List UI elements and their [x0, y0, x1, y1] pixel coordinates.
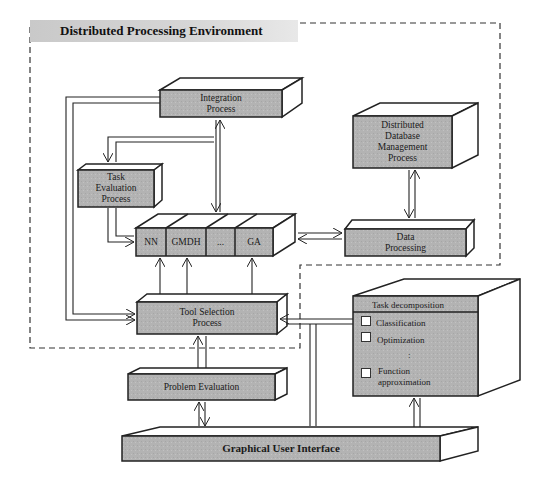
task-eval-line2: Evaluation — [95, 183, 136, 194]
tool-sel-line2: Process — [192, 318, 221, 329]
gui-label: Graphical User Interface — [122, 436, 440, 461]
ddbms-line3: Management — [378, 142, 428, 153]
classification-label: Classification — [376, 318, 426, 328]
tool-ellipsis: ... — [206, 228, 235, 256]
classification-checkbox — [361, 316, 371, 326]
integration-process-label: Integration Process — [160, 90, 282, 117]
data-processing-label: Data Processing — [345, 229, 466, 256]
tool-gmdh: GMDH — [166, 228, 206, 256]
task-eval-line3: Process — [101, 194, 130, 205]
integration-label-line1: Integration — [200, 93, 242, 104]
tool-selection-label: Tool Selection Process — [137, 302, 277, 334]
data-proc-line1: Data — [397, 232, 415, 243]
data-proc-line2: Processing — [385, 243, 426, 254]
ddbms-line2: Database — [385, 131, 420, 142]
ellipsis-dots: : — [408, 350, 411, 360]
tool-nn: NN — [136, 228, 166, 256]
optimization-checkbox — [361, 332, 371, 342]
ddbms-line4: Process — [388, 153, 417, 164]
task-decomposition-header: Task decomposition — [372, 300, 444, 310]
integration-label-line2: Process — [206, 104, 235, 115]
function-label: Function — [378, 366, 410, 376]
task-evaluation-label: Task Evaluation Process — [78, 170, 154, 207]
optimization-label: Optimization — [377, 335, 425, 345]
environment-title: Distributed Processing Environment — [30, 20, 298, 42]
task-eval-line1: Task — [107, 172, 125, 183]
ddbms-line1: Distributed — [381, 120, 424, 131]
ddbms-label: Distributed Database Management Process — [353, 116, 452, 168]
problem-evaluation-label: Problem Evaluation — [128, 374, 275, 400]
function-approximation-checkbox — [361, 368, 371, 378]
tool-ga: GA — [235, 228, 273, 256]
approximation-label: approximation — [378, 377, 431, 387]
tool-sel-line1: Tool Selection — [179, 307, 234, 318]
